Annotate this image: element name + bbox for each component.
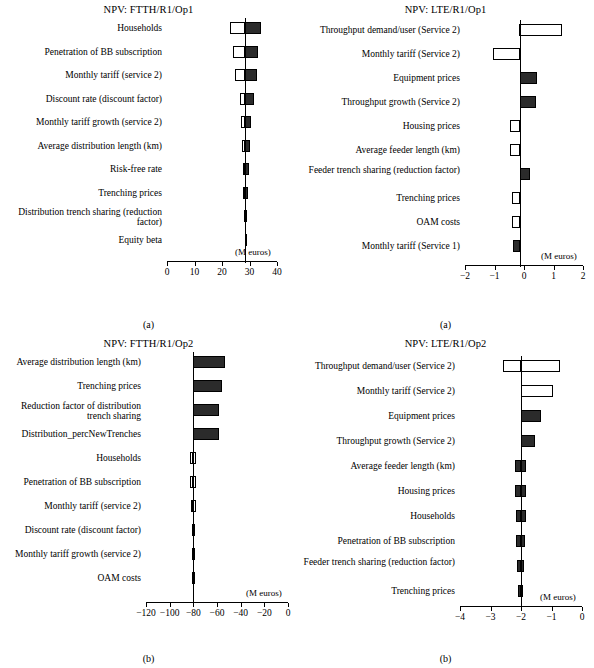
bar-segment — [245, 187, 248, 199]
x-tick — [222, 262, 223, 266]
bar-segment — [521, 485, 526, 497]
units-label: (M euros) — [541, 251, 577, 261]
category-label: Reduction factor of distribution trench … — [1, 401, 141, 421]
bar-segment — [520, 96, 537, 108]
x-tick-label: −1 — [489, 271, 499, 281]
x-tick-label: −2 — [460, 271, 470, 281]
category-label: Throughput growth (Service 2) — [300, 436, 455, 447]
bar-segment — [512, 192, 519, 204]
bar-segment — [245, 140, 249, 152]
category-label: Trenching prices — [300, 586, 455, 597]
category-label: Monthly tariff (Service 2) — [300, 386, 455, 397]
bar-segment — [235, 69, 246, 81]
category-label: Monthly tariff growth (service 2) — [1, 549, 141, 560]
bar-segment — [193, 476, 195, 488]
panel-caption: (b) — [297, 653, 594, 664]
bar-segment — [193, 548, 195, 560]
x-tick-label: −40 — [233, 608, 248, 618]
bar-segment — [230, 22, 245, 34]
category-label: Penetration of BB subscription — [300, 536, 455, 547]
bar-segment — [193, 356, 225, 368]
category-label: Equipment prices — [300, 411, 455, 422]
bar-segment — [193, 428, 218, 440]
x-tick-label: −80 — [186, 608, 201, 618]
bar-segment — [245, 234, 247, 246]
category-label: Trenching prices — [1, 381, 141, 392]
x-tick — [554, 266, 555, 270]
category-label: Housing prices — [300, 486, 455, 497]
bar-segment — [513, 240, 520, 252]
chart-panel-ftth-r1-op2: NPV: FTTH/R1/Op2 Average distribution le… — [0, 334, 297, 668]
bar-segment — [245, 116, 251, 128]
bar-segment — [510, 144, 520, 156]
bar-segment — [193, 500, 195, 512]
plot-area: HouseholdsPenetration of BB subscription… — [0, 0, 297, 334]
x-tick — [491, 607, 492, 611]
plot-area: Average distribution length (km)Trenchin… — [0, 334, 297, 668]
bar-segment — [521, 385, 553, 397]
category-label: Housing prices — [300, 121, 460, 132]
x-tick-label: 0 — [522, 271, 527, 281]
bar-segment — [245, 22, 261, 34]
x-tick-label: 0 — [580, 612, 585, 622]
bar-segment — [521, 560, 524, 572]
bar-segment — [193, 524, 195, 536]
category-label: Monthly tariff (service 2) — [1, 501, 141, 512]
category-label: Feeder trench sharing (reduction factor) — [300, 557, 455, 567]
bar-segment — [493, 48, 520, 60]
x-tick-label: −4 — [455, 612, 465, 622]
x-tick-label: 0 — [286, 608, 291, 618]
x-tick-label: −3 — [485, 612, 495, 622]
x-tick — [460, 607, 461, 611]
bar-segment — [520, 168, 530, 180]
x-tick — [170, 603, 171, 607]
bar-segment — [245, 163, 248, 175]
category-label: Penetration of BB subscription — [0, 47, 162, 58]
category-label: Households — [0, 23, 162, 34]
chart-panel-lte-r1-op2: NPV: LTE/R1/Op2 Throughput demand/user (… — [297, 334, 594, 668]
bar-segment — [245, 210, 247, 222]
x-tick-label: 40 — [272, 267, 282, 277]
units-label: (M euros) — [540, 592, 576, 602]
category-label: Monthly tariff (Service 2) — [300, 49, 460, 60]
x-tick-label: 0 — [165, 267, 170, 277]
units-label: (M euros) — [235, 247, 271, 257]
bar-segment — [521, 535, 525, 547]
category-label: Households — [1, 453, 141, 464]
x-tick-label: 1 — [551, 271, 556, 281]
plot-area: Throughput demand/user (Service 2)Monthl… — [297, 0, 594, 334]
x-tick — [524, 266, 525, 270]
x-tick — [241, 603, 242, 607]
x-tick — [277, 262, 278, 266]
category-label: Average feeder length (km) — [300, 145, 460, 156]
category-label: Discount rate (discount factor) — [0, 94, 162, 105]
chart-panel-lte-r1-op1: NPV: LTE/R1/Op1 Throughput demand/user (… — [297, 0, 594, 334]
category-label: Average distribution length (km) — [0, 141, 162, 152]
category-label: Monthly tariff (Service 1) — [300, 241, 460, 252]
category-label: Equity beta — [0, 235, 162, 246]
bar-segment — [521, 460, 526, 472]
bar-segment — [520, 24, 563, 36]
x-tick — [582, 607, 583, 611]
x-tick-label: −100 — [160, 608, 180, 618]
bar-segment — [512, 216, 519, 228]
x-tick — [583, 266, 584, 270]
x-tick — [195, 262, 196, 266]
bar-segment — [521, 510, 526, 522]
bar-segment — [233, 46, 245, 58]
category-label: Distribution trench sharing (reduction f… — [0, 207, 162, 227]
x-tick — [552, 607, 553, 611]
category-label: Average feeder length (km) — [300, 461, 455, 472]
bar-segment — [245, 69, 256, 81]
category-label: Penetration of BB subscription — [1, 477, 141, 488]
bar-segment — [193, 572, 195, 584]
category-label: Trenching prices — [300, 193, 460, 204]
panel-caption: (a) — [0, 319, 297, 330]
x-tick-label: 2 — [581, 271, 586, 281]
x-tick — [250, 262, 251, 266]
category-label: Discount rate (discount factor) — [1, 525, 141, 536]
bar-segment — [521, 435, 535, 447]
x-tick-label: −20 — [257, 608, 272, 618]
x-tick-label: −2 — [516, 612, 526, 622]
category-label: Equipment prices — [300, 73, 460, 84]
